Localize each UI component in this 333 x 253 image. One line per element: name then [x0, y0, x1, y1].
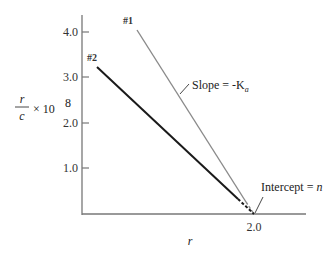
- series-2-label: #2: [87, 52, 97, 63]
- y-tick-label-3: 3.0: [63, 70, 78, 84]
- svg-text:r: r: [20, 92, 25, 106]
- svg-text:c: c: [19, 109, 25, 123]
- intercept-annotation: Intercept = n: [255, 180, 322, 213]
- series-1-label: #1: [123, 15, 133, 26]
- y-tick-label-4: 4.0: [63, 25, 78, 39]
- y-tick-label-1: 1.0: [63, 161, 78, 175]
- scatchard-plot: 4.0 3.0 2.0 1.0 2.0 r c × 10 8 r #1 #2 S…: [0, 0, 333, 253]
- svg-text:× 10: × 10: [33, 102, 55, 116]
- x-axis-label: r: [188, 234, 193, 248]
- slope-annotation: Slope = -Ka: [180, 78, 249, 94]
- x-tick-label-2: 2.0: [247, 220, 262, 234]
- y-tick-label-2: 2.0: [63, 116, 78, 130]
- svg-text:Slope = -Ka: Slope = -Ka: [192, 78, 249, 94]
- svg-text:8: 8: [65, 96, 71, 110]
- svg-text:Intercept = n: Intercept = n: [261, 180, 322, 194]
